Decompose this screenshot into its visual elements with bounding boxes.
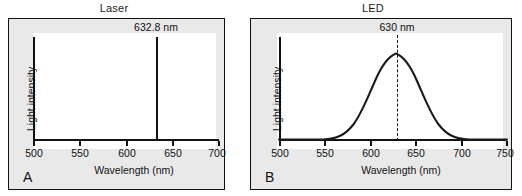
panel-a-tick-700 xyxy=(218,141,220,146)
panel-a-frame: 500 550 600 650 700 632.8 nm Light inten… xyxy=(8,18,225,190)
panel-a-y-axis-label: Light intensity xyxy=(25,67,37,131)
panel-a-tick-550 xyxy=(79,141,81,146)
panel-a-plot-area xyxy=(33,33,216,149)
panel-b-led: LED 500 550 600 650 700 750 630 n xyxy=(240,0,522,196)
panel-a-tick-500 xyxy=(33,141,35,146)
panel-a-tick-600 xyxy=(126,141,128,146)
panel-b-x-axis-label: Wavelength (nm) xyxy=(361,164,441,176)
panel-a-title: Laser xyxy=(0,2,234,14)
laser-emission-spike xyxy=(156,37,158,140)
panel-b-letter: B xyxy=(265,169,274,185)
panel-a-tick-label-650: 650 xyxy=(164,147,182,159)
led-peak-dashed-marker xyxy=(397,35,398,141)
laser-wavelength-annotation: 632.8 nm xyxy=(134,21,178,33)
panel-a-tick-label-700: 700 xyxy=(208,147,226,159)
panel-b-frame: 500 550 600 650 700 750 630 nm Light int… xyxy=(250,18,512,190)
led-wavelength-annotation: 630 nm xyxy=(379,21,414,33)
panel-a-tick-label-500: 500 xyxy=(25,147,43,159)
panel-a-letter: A xyxy=(23,169,32,185)
panel-b-y-axis-label: Light intensity xyxy=(271,67,283,131)
panel-a-tick-650 xyxy=(172,141,174,146)
spectral-comparison-figure: Laser 500 550 600 650 700 632.8 nm Light… xyxy=(0,0,522,196)
panel-a-tick-label-550: 550 xyxy=(71,147,89,159)
panel-a-laser: Laser 500 550 600 650 700 632.8 nm Light… xyxy=(0,0,240,196)
panel-b-title: LED xyxy=(232,2,514,14)
panel-a-tick-label-600: 600 xyxy=(118,147,136,159)
panel-a-x-axis-label: Wavelength (nm) xyxy=(94,164,174,176)
